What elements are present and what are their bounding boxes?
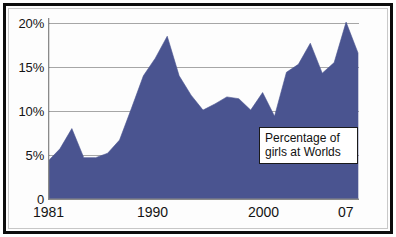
- x-tick-2000: 2000: [248, 205, 279, 219]
- y-axis-labels: 20% 15% 10% 5% 0: [0, 0, 44, 237]
- annotation-line-2: girls at Worlds: [265, 145, 352, 159]
- series-area-percentage-of-girls: [48, 22, 358, 199]
- x-tick-07: 07: [338, 205, 354, 219]
- chart-figure: 20% 15% 10% 5% 0 Percentage of girls at …: [0, 0, 396, 237]
- plot-area: [48, 18, 359, 200]
- y-tick-5: 5%: [26, 149, 44, 162]
- area-chart-svg: [48, 18, 359, 200]
- y-tick-15: 15%: [19, 61, 44, 74]
- x-axis-labels: 1981 1990 2000 07: [0, 205, 396, 231]
- y-tick-20: 20%: [19, 17, 44, 30]
- annotation-line-1: Percentage of: [265, 131, 352, 145]
- x-tick-1990: 1990: [137, 205, 168, 219]
- y-tick-10: 10%: [19, 105, 44, 118]
- x-tick-1981: 1981: [33, 205, 64, 219]
- annotation-callout: Percentage of girls at Worlds: [259, 127, 358, 164]
